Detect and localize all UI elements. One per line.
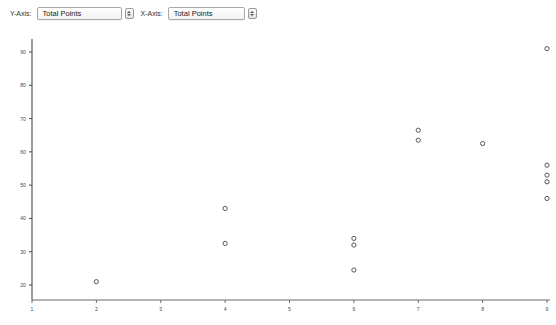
x-tick-label: 2 xyxy=(95,306,98,312)
y-tick-label: 20 xyxy=(20,282,26,288)
y-tick-label: 70 xyxy=(20,116,26,122)
data-point[interactable] xyxy=(352,236,356,240)
data-point[interactable] xyxy=(481,141,485,145)
data-point[interactable] xyxy=(223,241,227,245)
y-tick-label: 80 xyxy=(20,82,26,88)
x-tick-label: 4 xyxy=(224,306,227,312)
data-point[interactable] xyxy=(545,180,549,184)
y-tick-label: 50 xyxy=(20,182,26,188)
y-axis-stepper-button[interactable] xyxy=(125,8,134,19)
x-tick-label: 1 xyxy=(31,306,34,312)
y-tick-label: 60 xyxy=(20,149,26,155)
x-tick-label: 3 xyxy=(159,306,162,312)
data-point[interactable] xyxy=(223,206,227,210)
scatter-plot-panel[interactable]: 2030405060708090 123456789 xyxy=(0,27,556,325)
data-points-layer[interactable] xyxy=(94,47,549,284)
stepper-up-icon xyxy=(127,11,131,13)
stepper-down-icon xyxy=(127,14,131,16)
x-axis-group: 123456789 xyxy=(31,300,550,312)
y-tick-label: 90 xyxy=(20,49,26,55)
x-tick-label: 5 xyxy=(288,306,291,312)
stepper-up-icon xyxy=(250,11,254,13)
data-point[interactable] xyxy=(545,163,549,167)
x-axis-select[interactable]: Total Points xyxy=(168,7,245,20)
scatter-plot-svg[interactable]: 2030405060708090 123456789 xyxy=(0,27,556,325)
x-axis-control-group: X-Axis: Total Points xyxy=(141,7,257,20)
x-axis-stepper-button[interactable] xyxy=(248,8,257,19)
data-point[interactable] xyxy=(352,243,356,247)
y-axis-group: 2030405060708090 xyxy=(20,39,32,300)
y-tick-label: 40 xyxy=(20,215,26,221)
data-point[interactable] xyxy=(416,138,420,142)
data-point[interactable] xyxy=(94,280,98,284)
x-axis-ticks: 123456789 xyxy=(31,300,549,312)
y-axis-select[interactable]: Total Points xyxy=(37,7,122,20)
data-point[interactable] xyxy=(545,196,549,200)
data-point[interactable] xyxy=(545,47,549,51)
axis-control-bar: Y-Axis: Total Points X-Axis: Total Point… xyxy=(0,0,556,27)
data-point[interactable] xyxy=(352,268,356,272)
y-axis-label: Y-Axis: xyxy=(10,10,32,17)
y-axis-ticks: 2030405060708090 xyxy=(20,49,32,288)
data-point[interactable] xyxy=(416,128,420,132)
x-tick-label: 9 xyxy=(546,306,549,312)
x-axis-label: X-Axis: xyxy=(141,10,163,17)
stepper-down-icon xyxy=(250,14,254,16)
x-tick-label: 6 xyxy=(352,306,355,312)
data-point[interactable] xyxy=(545,173,549,177)
x-tick-label: 7 xyxy=(417,306,420,312)
x-axis-selected-value: Total Points xyxy=(169,9,217,18)
y-axis-selected-value: Total Points xyxy=(38,9,86,18)
y-axis-control-group: Y-Axis: Total Points xyxy=(10,7,134,20)
y-tick-label: 30 xyxy=(20,249,26,255)
x-tick-label: 8 xyxy=(481,306,484,312)
